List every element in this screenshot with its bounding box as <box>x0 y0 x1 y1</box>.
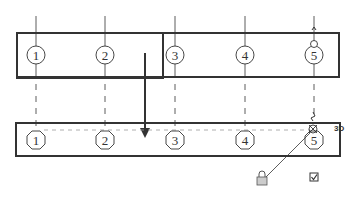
svg-text:4: 4 <box>242 133 249 148</box>
svg-text:5: 5 <box>311 133 318 148</box>
svg-text:3: 3 <box>172 48 179 63</box>
snap-label: 3D <box>334 124 344 133</box>
top-marker-labels: 1 2 3 4 5 <box>33 48 318 63</box>
svg-text:1: 1 <box>33 133 40 148</box>
arrow-down-icon <box>140 53 150 138</box>
bottom-marker-labels: 1 2 3 4 5 <box>33 133 318 148</box>
svg-text:2: 2 <box>102 48 109 63</box>
svg-text:1: 1 <box>33 48 40 63</box>
svg-text:4: 4 <box>242 48 249 63</box>
svg-text:3: 3 <box>172 133 179 148</box>
panel-diagram: 1 2 3 4 5 1 2 3 4 5 3D <box>0 0 357 197</box>
svg-text:2: 2 <box>102 133 109 148</box>
lock-icon[interactable] <box>257 171 267 185</box>
svg-text:5: 5 <box>311 48 318 63</box>
checkbox-checked-icon[interactable] <box>310 173 318 181</box>
